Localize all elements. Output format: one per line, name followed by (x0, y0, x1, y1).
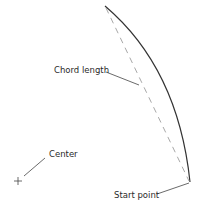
center-label: Center (49, 150, 78, 159)
start-leader (157, 183, 189, 194)
center-leader (24, 158, 45, 176)
chord-length-label: Chord length (54, 66, 109, 75)
chord-line (106, 8, 189, 181)
chord-leader (106, 72, 139, 85)
center-cross-icon (14, 177, 22, 185)
arc-diagram (0, 0, 206, 206)
start-point-label: Start point (114, 191, 159, 200)
